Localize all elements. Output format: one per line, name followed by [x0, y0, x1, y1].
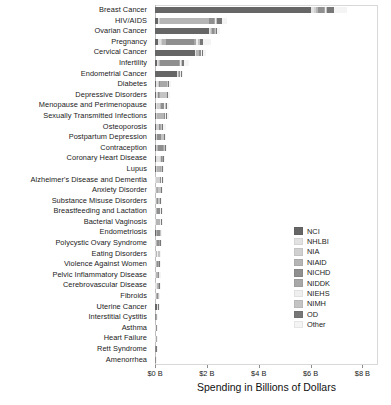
bar-segment-other — [166, 145, 167, 151]
bar-row[interactable] — [155, 336, 157, 342]
legend-swatch — [294, 300, 303, 308]
legend-swatch — [294, 311, 303, 319]
y-axis-label: Endometriosis — [0, 228, 151, 236]
bar-row[interactable] — [155, 314, 158, 320]
bar-row[interactable] — [155, 208, 162, 214]
legend-item-niaid[interactable]: NIAID — [294, 257, 364, 267]
y-axis-label: Infertility — [0, 59, 151, 67]
x-axis-tick-label: $2 B — [199, 369, 214, 378]
legend-label: NIEHS — [307, 289, 330, 298]
x-axis-tick-label: $4 B — [251, 369, 266, 378]
bar-segment-other — [163, 177, 164, 183]
bar-row[interactable] — [155, 283, 160, 289]
legend-item-nia[interactable]: NIA — [294, 247, 364, 257]
bar-row[interactable] — [155, 187, 163, 193]
legend-swatch — [294, 290, 303, 298]
bar-segment-other — [168, 92, 170, 98]
legend-item-od[interactable]: OD — [294, 309, 364, 319]
bar-segment-other — [165, 134, 166, 140]
bar-segment-other — [203, 50, 205, 56]
y-axis-label: Pregnancy — [0, 38, 151, 46]
bar-segment-other — [169, 81, 171, 87]
bar-row[interactable] — [155, 240, 161, 246]
bar-row[interactable] — [155, 251, 161, 257]
bar-row[interactable] — [155, 103, 169, 109]
bar-segment-other — [217, 28, 219, 34]
legend-item-niehs[interactable]: NIEHS — [294, 288, 364, 298]
bar-row[interactable] — [155, 71, 183, 77]
bar-segment-other — [203, 39, 211, 45]
bar-row[interactable] — [155, 304, 159, 310]
legend-swatch — [294, 269, 303, 277]
legend-label: Other — [307, 320, 325, 329]
y-axis-label: Pelvic Inflammatory Disease — [0, 271, 151, 279]
bar-row[interactable] — [155, 60, 189, 66]
y-axis-label: Uterine Cancer — [0, 303, 151, 311]
bar-row[interactable] — [155, 134, 166, 140]
x-axis-tick-mark — [259, 365, 260, 368]
bar-segment-niaid — [160, 18, 209, 24]
bar-segment-other — [163, 166, 164, 172]
bar-segment-other — [163, 124, 166, 130]
bar-row[interactable] — [155, 325, 158, 331]
bar-row[interactable] — [155, 272, 161, 278]
bar-row[interactable] — [155, 198, 162, 204]
legend-item-nci[interactable]: NCI — [294, 226, 364, 236]
y-axis-label: Osteoporosis — [0, 123, 151, 131]
bar-row[interactable] — [155, 293, 160, 299]
bar-row[interactable] — [155, 7, 347, 13]
y-axis-label: Rett Syndrome — [0, 345, 151, 353]
legend-label: OD — [307, 310, 318, 319]
bar-segment-other — [167, 103, 169, 109]
legend-swatch — [294, 321, 303, 329]
legend-swatch — [294, 248, 303, 256]
x-axis-tick-label: $0 B — [147, 369, 162, 378]
bar-row[interactable] — [155, 346, 157, 352]
legend-label: NIDDK — [307, 279, 330, 288]
bar-row[interactable] — [155, 81, 171, 87]
bar-row[interactable] — [155, 113, 169, 119]
bar-row[interactable] — [155, 18, 227, 24]
x-axis-tick-mark — [362, 365, 363, 368]
bar-row[interactable] — [155, 156, 165, 162]
bar-row[interactable] — [155, 28, 220, 34]
x-axis-tick-mark — [311, 365, 312, 368]
y-axis-label: Coronary Heart Disease — [0, 154, 151, 162]
bar-row[interactable] — [155, 92, 170, 98]
bar-segment-nci — [155, 71, 177, 77]
legend-label: NICHD — [307, 268, 330, 277]
bar-row[interactable] — [155, 145, 167, 151]
bar-row[interactable] — [155, 261, 161, 267]
bar-row[interactable] — [155, 357, 156, 363]
y-axis-label: Eating Disorders — [0, 250, 151, 258]
bar-segment-niaid — [157, 113, 164, 119]
bar-segment-other — [167, 113, 168, 119]
bar-row[interactable] — [155, 177, 163, 183]
legend-item-nimh[interactable]: NIMH — [294, 299, 364, 309]
bar-segment-other — [184, 60, 188, 66]
bar-row[interactable] — [155, 219, 162, 225]
y-axis-label: Contraception — [0, 144, 151, 152]
legend-swatch — [294, 279, 303, 287]
y-axis-label: Breastfeeding and Lactation — [0, 207, 151, 215]
bar-row[interactable] — [155, 39, 211, 45]
bar-segment-other — [164, 156, 165, 162]
legend-item-other[interactable]: Other — [294, 320, 364, 330]
legend-swatch — [294, 238, 303, 246]
y-axis-label: Cervical Cancer — [0, 48, 151, 56]
legend-item-nichd[interactable]: NICHD — [294, 268, 364, 278]
bar-row[interactable] — [155, 124, 166, 130]
legend-label: NIAID — [307, 258, 327, 267]
y-axis-label: Postpartum Depression — [0, 133, 151, 141]
bar-row[interactable] — [155, 50, 206, 56]
legend-item-nhlbi[interactable]: NHLBI — [294, 236, 364, 246]
bar-row[interactable] — [155, 166, 163, 172]
legend-label: NIMH — [307, 299, 326, 308]
legend-label: NHLBI — [307, 237, 329, 246]
bar-segment-other — [182, 71, 183, 77]
legend-item-niddk[interactable]: NIDDK — [294, 278, 364, 288]
bar-segment-other — [222, 18, 227, 24]
y-axis-label: Sexually Transmitted Infections — [0, 112, 151, 120]
bar-row[interactable] — [155, 230, 162, 236]
bar-segment-od — [327, 7, 334, 13]
